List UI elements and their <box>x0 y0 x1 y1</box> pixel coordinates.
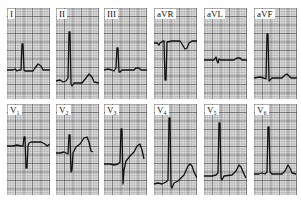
ecg-trace <box>154 118 197 188</box>
ecg-grid <box>254 104 297 195</box>
lead-label: V₄ <box>155 105 169 115</box>
ecg-panel-lead-4-row-0: aVL <box>204 8 247 99</box>
lead-label: III <box>105 9 118 19</box>
ecg-grid <box>7 8 50 99</box>
lead-label: aVR <box>155 9 176 19</box>
lead-label: aVL <box>205 9 225 19</box>
ecg-trace <box>104 48 147 72</box>
ecg-panel-lead-5-row-1: V₆ <box>254 104 297 195</box>
ecg-panel-lead-2-row-0: III <box>104 8 147 99</box>
ecg-grid <box>154 104 197 195</box>
ecg-grid <box>154 8 197 99</box>
lead-label: V₅ <box>205 105 219 115</box>
ecg-trace <box>204 57 247 63</box>
ecg-grid <box>56 104 99 195</box>
ecg-panel-lead-2-row-1: V₃ <box>104 104 147 195</box>
ecg-grid <box>254 8 297 99</box>
ecg-panel-lead-4-row-1: V₅ <box>204 104 247 195</box>
ecg-grid <box>104 104 147 195</box>
ecg-grid <box>56 8 99 99</box>
ecg-panel-lead-0-row-0: I <box>7 8 50 99</box>
lead-label: I <box>8 9 15 19</box>
lead-label: aVF <box>255 9 275 19</box>
ecg-grid <box>104 8 147 99</box>
lead-label: V₃ <box>105 105 119 115</box>
ecg-panel-lead-1-row-0: II <box>56 8 99 99</box>
ecg-panel-lead-5-row-0: aVF <box>254 8 297 99</box>
ecg-panel-lead-3-row-1: V₄ <box>154 104 197 195</box>
ecg-grid <box>204 8 247 99</box>
lead-label: V₆ <box>255 105 269 115</box>
ecg-panel-lead-3-row-0: aVR <box>154 8 197 99</box>
ecg-panel-lead-1-row-1: V₂ <box>56 104 99 195</box>
lead-label: V₂ <box>57 105 71 115</box>
lead-label: V₁ <box>8 105 22 115</box>
ecg-panel-lead-0-row-1: V₁ <box>7 104 50 195</box>
ecg-grid <box>204 104 247 195</box>
ecg-grid <box>7 104 50 195</box>
lead-label: II <box>57 9 67 19</box>
